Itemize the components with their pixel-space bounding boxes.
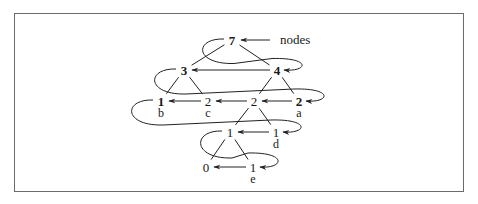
tree-edge (259, 108, 271, 124)
tree-node-value: 2 (251, 94, 258, 109)
tree-node-label: d (273, 137, 279, 151)
tree-edge (190, 77, 203, 94)
level-linked-tree-diagram: 7341b2c22a11d01e nodes (0, 0, 478, 204)
tree-node-label: e (250, 172, 255, 186)
tree-node-value: 4 (274, 63, 281, 78)
tree-nodes: 7341b2c22a11d01e (158, 33, 303, 186)
tree-node-value: 0 (203, 160, 210, 175)
wraparound-link-arrow (201, 131, 278, 167)
tree-node-value: 1 (227, 125, 234, 140)
annotation-label: nodes (280, 32, 310, 47)
level-links (169, 70, 292, 167)
tree-node-value: 3 (181, 63, 188, 78)
tree-node-label: c (205, 106, 210, 120)
tree-edge (166, 77, 178, 94)
tree-node-label: b (158, 106, 164, 120)
tree-edge (259, 77, 271, 94)
tree-node-label: a (296, 106, 302, 120)
tree-edge (282, 77, 294, 93)
tree-node-value: 7 (229, 33, 236, 48)
nodes-annotation: nodes (241, 32, 310, 47)
tree-edge (236, 108, 249, 125)
